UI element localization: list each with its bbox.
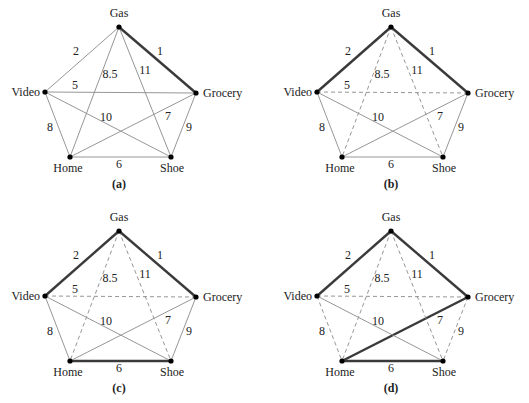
panel-c: 1256788.591011GasVideoGroceryHomeShoe(c)	[11, 210, 242, 395]
node-label-video: Video	[11, 289, 40, 303]
edge-gas-grocery	[391, 231, 468, 297]
node-gas	[116, 24, 121, 29]
edge-weight-gas-grocery: 1	[157, 44, 163, 58]
edge-weight-video-shoe: 10	[100, 110, 112, 124]
edge-home-grocery	[342, 93, 468, 157]
edge-weight-video-shoe: 10	[372, 110, 384, 124]
edge-weight-gas-shoe: 11	[411, 267, 423, 281]
edge-grocery-shoe	[171, 297, 196, 361]
edge-weight-gas-home: 8.5	[103, 271, 118, 285]
node-grocery	[465, 90, 470, 95]
panel-d: 1256788.591011GasVideoGroceryHomeShoe(d)	[283, 210, 514, 395]
edge-weight-gas-shoe: 11	[411, 63, 423, 77]
edge-weight-video-shoe: 10	[100, 314, 112, 328]
edge-weight-video-shoe: 10	[372, 314, 384, 328]
node-home	[339, 154, 344, 159]
node-video	[314, 89, 319, 94]
edge-weight-grocery-shoe: 9	[458, 324, 464, 338]
node-shoe	[168, 358, 173, 363]
edge-weight-home-grocery: 7	[165, 313, 171, 327]
edge-weight-gas-video: 2	[73, 44, 79, 58]
edge-weight-home-shoe: 6	[388, 157, 394, 171]
node-label-shoe: Shoe	[432, 365, 456, 379]
panel-caption: (c)	[112, 381, 125, 395]
edge-gas-grocery	[391, 27, 468, 93]
edge-weight-grocery-shoe: 9	[186, 324, 192, 338]
edge-weight-gas-shoe: 11	[139, 63, 151, 77]
edge-video-shoe	[45, 296, 171, 361]
edge-video-shoe	[317, 92, 443, 157]
node-label-gas: Gas	[110, 6, 129, 20]
node-shoe	[440, 154, 445, 159]
edge-weight-home-shoe: 6	[388, 361, 394, 375]
edge-weight-gas-grocery: 1	[157, 248, 163, 262]
edge-video-grocery	[317, 92, 468, 93]
node-label-shoe: Shoe	[432, 161, 456, 175]
node-grocery	[465, 294, 470, 299]
edge-gas-video	[317, 27, 391, 92]
edge-weight-home-shoe: 6	[116, 361, 122, 375]
edge-weight-home-grocery: 7	[437, 109, 443, 123]
edge-gas-video	[45, 27, 119, 92]
node-label-grocery: Grocery	[475, 86, 514, 100]
edge-video-grocery	[45, 92, 196, 93]
node-home	[67, 154, 72, 159]
panel-b: 1256788.591011GasVideoGroceryHomeShoe(b)	[283, 6, 514, 191]
node-label-shoe: Shoe	[160, 365, 184, 379]
node-label-gas: Gas	[382, 6, 401, 20]
edge-weight-gas-grocery: 1	[429, 248, 435, 262]
node-gas	[388, 228, 393, 233]
edge-weight-grocery-shoe: 9	[458, 120, 464, 134]
node-label-grocery: Grocery	[203, 290, 242, 304]
edge-gas-video	[317, 231, 391, 296]
panel-caption: (b)	[384, 177, 399, 191]
edge-video-grocery	[317, 296, 468, 297]
edge-weight-grocery-shoe: 9	[186, 120, 192, 134]
edge-weight-gas-video: 2	[73, 248, 79, 262]
node-video	[42, 293, 47, 298]
node-label-video: Video	[283, 289, 312, 303]
edge-weight-gas-video: 2	[345, 44, 351, 58]
edge-home-grocery	[342, 297, 468, 361]
edge-weight-gas-home: 8.5	[375, 67, 390, 81]
node-gas	[116, 228, 121, 233]
edge-gas-video	[45, 231, 119, 296]
node-home	[67, 358, 72, 363]
node-label-video: Video	[11, 85, 40, 99]
node-gas	[388, 24, 393, 29]
edge-weight-video-grocery: 5	[344, 78, 350, 92]
node-label-video: Video	[283, 85, 312, 99]
edge-gas-grocery	[119, 231, 196, 297]
node-label-home: Home	[53, 161, 82, 175]
edge-weight-home-grocery: 7	[165, 109, 171, 123]
node-label-gas: Gas	[110, 210, 129, 224]
edge-weight-home-grocery: 7	[437, 313, 443, 327]
edge-weight-home-shoe: 6	[116, 157, 122, 171]
edge-weight-gas-grocery: 1	[429, 44, 435, 58]
node-label-shoe: Shoe	[160, 161, 184, 175]
edge-gas-grocery	[119, 27, 196, 93]
panel-caption: (d)	[384, 381, 399, 395]
panel-a: 1256788.591011GasVideoGroceryHomeShoe(a)	[11, 6, 242, 191]
edge-weight-gas-video: 2	[345, 248, 351, 262]
edge-weight-video-grocery: 5	[72, 78, 78, 92]
edge-grocery-shoe	[443, 93, 468, 157]
edge-weight-video-grocery: 5	[344, 282, 350, 296]
edge-home-grocery	[70, 297, 196, 361]
edge-weight-video-home: 8	[47, 120, 53, 134]
node-grocery	[193, 294, 198, 299]
edge-weight-video-home: 8	[47, 324, 53, 338]
node-grocery	[193, 90, 198, 95]
graph-figure: 1256788.591011GasVideoGroceryHomeShoe(a)…	[0, 0, 529, 403]
edge-video-shoe	[317, 296, 443, 361]
node-label-grocery: Grocery	[475, 290, 514, 304]
edge-gas-shoe	[391, 27, 443, 157]
node-video	[42, 89, 47, 94]
edge-weight-gas-home: 8.5	[103, 67, 118, 81]
edge-gas-shoe	[119, 231, 171, 361]
edge-weight-video-grocery: 5	[72, 282, 78, 296]
edge-home-grocery	[70, 93, 196, 157]
edge-weight-video-home: 8	[319, 120, 325, 134]
edge-weight-gas-shoe: 11	[139, 267, 151, 281]
node-label-home: Home	[53, 365, 82, 379]
